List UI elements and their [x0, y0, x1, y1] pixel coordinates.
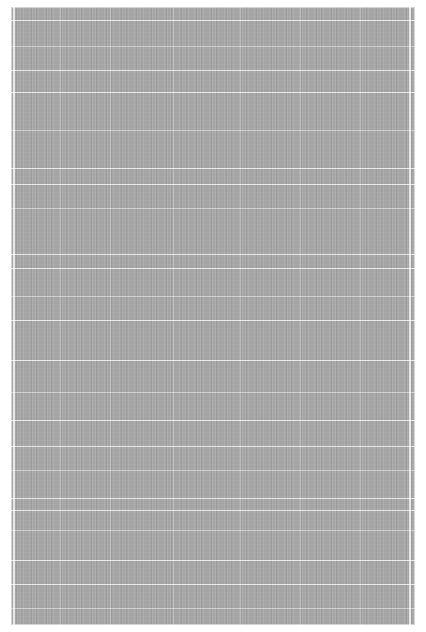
horizontal-stripe [11, 320, 415, 321]
horizontal-stripe [11, 168, 415, 169]
horizontal-stripe [11, 470, 415, 471]
horizontal-stripe [11, 70, 415, 71]
horizontal-stripe [11, 268, 415, 269]
horizontal-stripe [11, 254, 415, 255]
horizontal-stripe [11, 20, 415, 21]
horizontal-stripe [11, 560, 415, 561]
rug-right-border [409, 7, 411, 625]
horizontal-stripe [11, 498, 415, 499]
horizontal-stripe [11, 510, 415, 511]
horizontal-stripe [11, 296, 415, 297]
horizontal-stripe [11, 584, 415, 585]
vertical-thread [300, 7, 301, 625]
vertical-thread [240, 7, 241, 625]
horizontal-stripe [11, 360, 415, 361]
horizontal-stripe [11, 420, 415, 421]
vertical-thread [173, 7, 174, 625]
horizontal-stripe [11, 392, 415, 393]
vertical-thread [110, 7, 111, 625]
vertical-thread [360, 7, 361, 625]
horizontal-stripe [11, 446, 415, 447]
horizontal-stripe [11, 92, 415, 93]
rug-texture [11, 7, 415, 625]
horizontal-stripe [11, 608, 415, 609]
horizontal-stripe [11, 530, 415, 531]
horizontal-stripe [11, 208, 415, 209]
vertical-thread [60, 7, 61, 625]
horizontal-stripe [11, 130, 415, 131]
horizontal-stripe [11, 184, 415, 185]
horizontal-stripe [11, 46, 415, 47]
rug-left-border [13, 7, 15, 625]
